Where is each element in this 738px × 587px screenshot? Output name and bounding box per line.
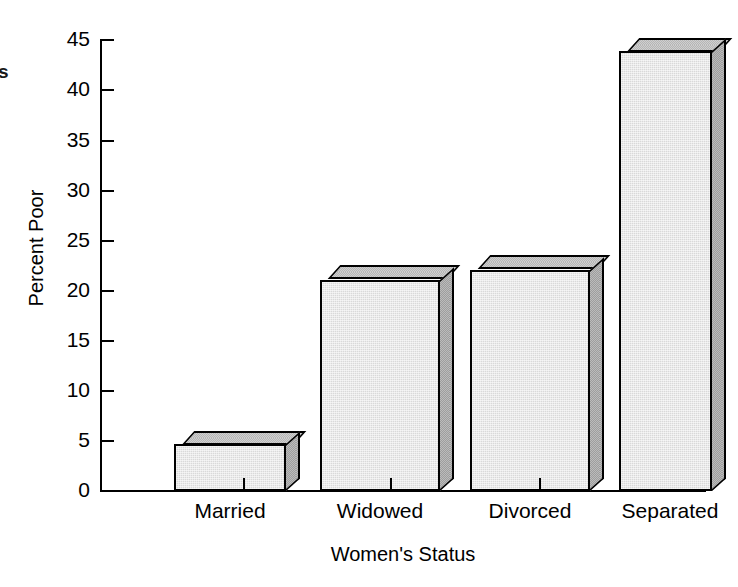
y-tick-label-15: 15: [34, 329, 90, 350]
x-axis-title: Women's Status: [100, 544, 706, 564]
bar-front-face-separated: [619, 51, 712, 491]
bar-side-face-widowed: [440, 267, 454, 491]
x-divider-tick-1: [243, 478, 245, 491]
bar-top-face-divorced: [478, 255, 611, 269]
x-divider-tick-2: [390, 478, 392, 491]
y-tick-label-35: 35: [34, 129, 90, 150]
scan-edge-fragment: s: [0, 62, 9, 81]
bar-front-face-widowed: [320, 280, 440, 491]
x-tick-label-separated: Separated: [595, 500, 738, 521]
bar-front-face-married: [174, 444, 286, 491]
plot-area: [100, 39, 706, 491]
x-divider-tick-3: [539, 478, 541, 491]
bar-side-face-married: [286, 431, 300, 491]
y-tick-label-20: 20: [34, 279, 90, 300]
y-tick-label-10: 10: [34, 379, 90, 400]
bar-side-face-divorced: [590, 257, 604, 491]
y-tick-label-30: 30: [34, 179, 90, 200]
y-tick-label-0: 0: [34, 479, 90, 500]
bar-top-face-widowed: [328, 265, 461, 279]
bar-chart-figure: s Percent Poor 45 40 35 30 25 20 15 10 5…: [0, 0, 738, 587]
y-tick-label-40: 40: [34, 78, 90, 99]
bar-front-face-divorced: [470, 270, 590, 491]
x-tick-label-widowed: Widowed: [305, 500, 455, 521]
x-tick-label-married: Married: [160, 500, 300, 521]
y-tick-label-45: 45: [34, 28, 90, 49]
y-tick-label-25: 25: [34, 229, 90, 250]
x-tick-label-divorced: Divorced: [455, 500, 605, 521]
y-tick-label-5: 5: [34, 429, 90, 450]
bar-side-face-separated: [712, 38, 726, 491]
